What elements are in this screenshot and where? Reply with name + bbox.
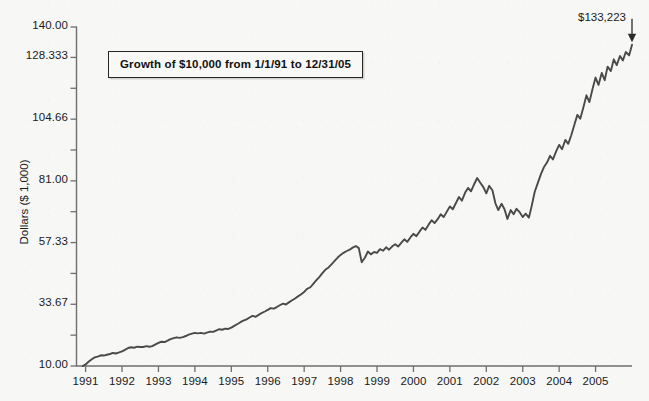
chart-screenshot: 140.00128.333104.6681.0057.3333.6710.00 … (0, 0, 649, 401)
x-axis-tick-label: 2000 (400, 375, 426, 387)
x-axis-tick-label: 1999 (364, 375, 390, 387)
x-axis-tick-label: 1992 (109, 375, 135, 387)
endpoint-value-label: $133,223 (578, 11, 626, 23)
x-axis-tick-label: 1998 (328, 375, 354, 387)
y-axis-title: Dollars ($ 1,000) (18, 127, 30, 277)
x-axis-tick-label: 2004 (546, 375, 572, 387)
x-axis-tick-label: 2003 (510, 375, 536, 387)
x-axis-tick-label: 1993 (145, 375, 171, 387)
x-axis-tick-label: 1997 (291, 375, 317, 387)
x-axis-tick-label: 2002 (473, 375, 499, 387)
growth-callout-box: Growth of $10,000 from 1/1/91 to 12/31/0… (108, 51, 363, 78)
x-axis-tick-label: 2001 (437, 375, 463, 387)
x-axis-tick-label: 2005 (583, 375, 609, 387)
x-axis-tick-label: 1995 (218, 375, 244, 387)
x-axis-tick-label: 1991 (73, 375, 99, 387)
x-axis-tick-label: 1996 (255, 375, 281, 387)
x-axis-tick-label: 1994 (182, 375, 208, 387)
